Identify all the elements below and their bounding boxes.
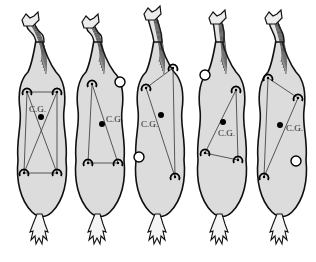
cg-dot: [277, 122, 283, 128]
lifted-hoof-right-fore: [115, 77, 125, 87]
cg-dot: [38, 114, 44, 120]
hoof-center: [172, 67, 174, 69]
hoof-center: [91, 83, 93, 85]
cg-dot: [220, 119, 226, 125]
horse-tail: [30, 214, 48, 244]
horse-head-ears: [209, 10, 226, 24]
lifted-hoof-left-hind: [134, 152, 144, 162]
hoof-center: [235, 89, 237, 91]
hoof-center: [263, 176, 265, 178]
hoof-center: [56, 172, 58, 174]
hoof-center: [204, 152, 206, 154]
horse-1: C.G.: [18, 12, 67, 244]
cg-label: C.G.: [29, 104, 46, 114]
hoof-center: [56, 91, 58, 93]
horse-head-ears: [144, 6, 161, 20]
cg-label: C.G.: [106, 114, 123, 124]
lifted-hoof-right-hind: [291, 156, 301, 166]
horse-5: C.G.: [258, 10, 307, 244]
cg-dot: [158, 112, 164, 118]
horse-head-ears: [82, 14, 99, 28]
hoof-center: [174, 176, 176, 178]
hoof-center: [23, 172, 25, 174]
cg-label: C.G.: [286, 123, 303, 133]
hoof-center: [297, 97, 299, 99]
hoof-center: [117, 162, 119, 164]
hoof-center: [267, 77, 269, 79]
horse-gait-diagram: C.G.C.G.C.G.C.G.C.G.: [0, 0, 316, 262]
horse-head-ears: [22, 12, 39, 26]
horse-3: C.G.: [134, 6, 184, 244]
lifted-hoof-left-fore: [200, 70, 210, 80]
hoof-center: [237, 159, 239, 161]
cg-label: C.G.: [141, 119, 158, 129]
horse-tail: [148, 214, 166, 244]
cg-dot: [99, 121, 105, 127]
hoof-center: [145, 87, 147, 89]
horse-body: [76, 40, 125, 217]
horse-4: C.G.: [198, 10, 247, 244]
horse-tail: [210, 214, 228, 244]
cg-label: C.G.: [218, 128, 235, 138]
hoof-center: [87, 162, 89, 164]
horse-2: C.G.: [76, 14, 125, 244]
diagram-canvas: C.G.C.G.C.G.C.G.C.G.: [0, 0, 316, 262]
horse-tail: [88, 214, 106, 244]
horse-head-ears: [265, 10, 282, 24]
horse-tail: [270, 214, 288, 244]
hoof-center: [26, 91, 28, 93]
